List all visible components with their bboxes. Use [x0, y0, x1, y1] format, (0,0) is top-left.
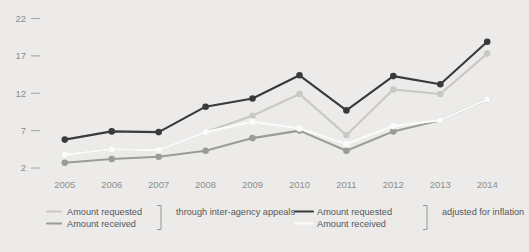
y-tick-label: 12 [15, 88, 26, 99]
data-point [390, 123, 397, 130]
data-point [296, 125, 303, 132]
legend-bracket [157, 206, 161, 230]
data-point [62, 160, 69, 167]
x-tick-label: 2010 [289, 179, 310, 190]
data-point [155, 154, 162, 161]
y-axis-ticks: 27121722 [15, 13, 40, 174]
data-point [62, 136, 69, 143]
y-tick-label: 2 [21, 162, 26, 173]
data-point [343, 132, 350, 139]
data-point [249, 95, 256, 102]
data-point [249, 135, 256, 142]
data-point [155, 129, 162, 136]
legend-group-0: Amount requestedAmount receivedthrough i… [47, 206, 295, 230]
y-tick-label: 22 [15, 13, 26, 24]
x-tick-label: 2005 [54, 179, 75, 190]
data-point [484, 50, 491, 57]
x-tick-label: 2011 [336, 179, 356, 190]
data-point [249, 118, 256, 125]
x-tick-label: 2006 [101, 179, 122, 190]
chart-legend: Amount requestedAmount receivedthrough i… [47, 206, 524, 230]
data-point [437, 91, 444, 98]
y-tick-label: 17 [15, 50, 26, 61]
series-container [62, 38, 491, 166]
data-point [296, 72, 303, 79]
data-point [62, 151, 69, 158]
line-chart: 27121722 2005200620072008200920102011201… [0, 0, 529, 252]
x-tick-label: 2014 [477, 179, 498, 190]
x-axis-labels: 2005200620072008200920102011201220132014 [54, 179, 498, 190]
data-point [390, 73, 397, 80]
series-line [65, 99, 487, 154]
legend-entry-label: Amount received [67, 219, 136, 229]
series-0 [62, 38, 491, 143]
legend-entry-label: Amount requested [67, 207, 142, 217]
series-line [65, 54, 487, 155]
x-tick-label: 2007 [148, 179, 169, 190]
data-point [108, 128, 115, 135]
legend-entry-label: Amount received [317, 219, 386, 229]
data-point [343, 148, 350, 155]
x-tick-label: 2009 [242, 179, 263, 190]
data-point [202, 129, 209, 136]
legend-group-1: Amount requestedAmount receivedadjusted … [295, 206, 524, 230]
legend-entry-label: Amount requested [317, 207, 392, 217]
data-point [343, 107, 350, 114]
legend-bracket-label: through inter-agency appeals [176, 207, 295, 217]
x-tick-label: 2012 [383, 179, 404, 190]
data-point [390, 86, 397, 93]
data-point [437, 117, 444, 124]
data-point [437, 81, 444, 88]
chart-svg: 27121722 2005200620072008200920102011201… [0, 0, 529, 252]
x-tick-label: 2008 [195, 179, 216, 190]
data-point [202, 148, 209, 155]
data-point [484, 38, 491, 45]
data-point [155, 147, 162, 154]
data-point [249, 112, 256, 119]
data-point [296, 91, 303, 98]
y-tick-label: 7 [21, 125, 26, 136]
data-point [202, 103, 209, 110]
data-point [108, 156, 115, 163]
series-1 [62, 50, 491, 158]
data-point [484, 96, 491, 103]
legend-bracket [423, 206, 427, 230]
data-point [343, 141, 350, 148]
legend-bracket-label: adjusted for inflation [442, 207, 524, 217]
data-point [108, 146, 115, 153]
x-tick-label: 2013 [430, 179, 451, 190]
